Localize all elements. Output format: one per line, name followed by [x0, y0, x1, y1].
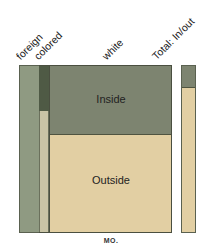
- label-total: Total: In/out: [150, 15, 197, 62]
- column-foreign: [19, 65, 39, 233]
- total-outside: [182, 88, 195, 232]
- total-inside: [182, 66, 195, 88]
- colored-outside: [39, 111, 49, 232]
- label-white: white: [100, 36, 126, 62]
- label-inside: Inside: [96, 93, 125, 105]
- colored-inside: [39, 66, 49, 111]
- column-total: [181, 65, 196, 233]
- column-colored: [39, 65, 49, 233]
- column-white: [49, 65, 172, 233]
- x-axis-label: MO.: [104, 237, 119, 244]
- label-outside: Outside: [92, 174, 130, 186]
